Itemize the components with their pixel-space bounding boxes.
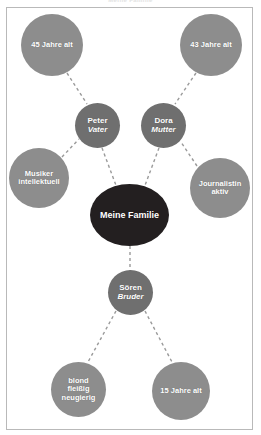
node-father-age-line-1: 45 Jahre alt — [31, 41, 72, 49]
link-father-to-center — [102, 148, 117, 188]
mindmap-canvas: 45 Jahre alt 43 Jahre alt Peter Vater Do… — [0, 0, 261, 435]
node-center-label: Meine Familie — [100, 210, 159, 220]
node-father[interactable]: Peter Vater — [75, 103, 120, 148]
node-mother-traits-text: Journalistin aktiv — [197, 180, 244, 197]
node-mother[interactable]: Dora Mutter — [141, 103, 186, 148]
node-father-traits[interactable]: Musiker intellektuell — [9, 148, 69, 208]
node-brother-text: Sören Bruder — [115, 284, 145, 302]
node-mother-text: Dora Mutter — [149, 117, 177, 135]
node-father-role: Vater — [87, 126, 107, 135]
node-father-traits-line-2: intellektuell — [18, 178, 59, 186]
link-father-age-to-father — [67, 73, 87, 104]
node-brother-role: Bruder — [117, 293, 143, 302]
node-father-traits-text: Musiker intellektuell — [16, 170, 61, 187]
node-center-meine-familie[interactable]: Meine Familie — [90, 184, 169, 246]
node-mother-role: Mutter — [151, 126, 175, 135]
node-mother-traits[interactable]: Journalistin aktiv — [190, 158, 250, 218]
node-father-text: Peter Vater — [85, 117, 109, 135]
node-brother[interactable]: Sören Bruder — [108, 270, 153, 315]
node-father-age[interactable]: 45 Jahre alt — [21, 14, 83, 76]
node-mother-age[interactable]: 43 Jahre alt — [180, 14, 242, 76]
link-brother-to-brother-age — [145, 311, 172, 362]
node-center-text: Meine Familie — [98, 210, 161, 220]
node-father-age-text: 45 Jahre alt — [29, 41, 74, 49]
node-brother-age-line-1: 15 Jahre alt — [160, 387, 201, 395]
node-mother-age-line-1: 43 Jahre alt — [190, 41, 231, 49]
link-mother-to-center — [144, 148, 159, 188]
mindmap-page: Meine Familie 45 Jahre alt — [0, 0, 261, 435]
node-mother-age-text: 43 Jahre alt — [188, 41, 233, 49]
link-mother-traits-to-mother — [181, 142, 197, 166]
node-brother-age-text: 15 Jahre alt — [158, 387, 203, 395]
node-brother-age[interactable]: 15 Jahre alt — [152, 362, 210, 420]
node-brother-traits[interactable]: blond fleißig neugierig — [51, 362, 106, 417]
node-brother-traits-line-3: neugierig — [62, 394, 96, 402]
link-father-traits-to-father — [62, 139, 79, 157]
node-brother-traits-text: blond fleißig neugierig — [60, 377, 98, 402]
link-mother-age-to-mother — [175, 73, 196, 104]
link-brother-to-brother-traits — [88, 311, 116, 362]
node-mother-traits-line-2: aktiv — [199, 188, 242, 196]
